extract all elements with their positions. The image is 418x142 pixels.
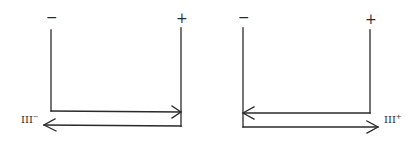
- left-diagram-upper-line: [51, 111, 181, 112]
- left-state-label-base: III: [21, 114, 33, 125]
- diagram-canvas: − + III− − + III+: [0, 0, 418, 142]
- left-diagram: [44, 28, 181, 131]
- left-state-label-superscript: −: [33, 113, 39, 121]
- left-state-label: III−: [21, 114, 39, 125]
- right-positive-terminal-label: +: [365, 12, 377, 26]
- left-negative-terminal-label: −: [46, 10, 58, 24]
- right-diagram: [243, 28, 378, 133]
- right-negative-terminal-label: −: [238, 10, 250, 24]
- circuit-diagrams: [0, 0, 418, 142]
- right-state-label-base: III: [384, 114, 396, 125]
- right-state-label: III+: [384, 114, 402, 125]
- right-state-label-superscript: +: [396, 113, 402, 121]
- left-positive-terminal-label: +: [176, 11, 188, 25]
- left-diagram-lower-line: [44, 125, 181, 126]
